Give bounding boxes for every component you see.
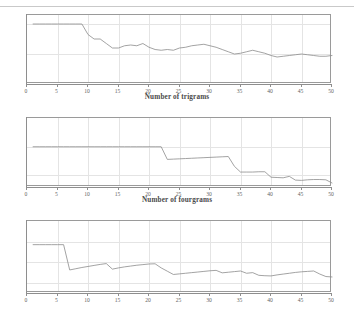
- x-tick: [209, 293, 210, 296]
- x-tick: [301, 84, 302, 87]
- x-tick: [26, 187, 27, 190]
- y-axis-fourgrams: [26, 220, 27, 293]
- plot-area-trigrams: [26, 14, 331, 83]
- x-tick-label: 40: [267, 297, 273, 303]
- x-tick: [331, 293, 332, 296]
- x-tick: [301, 187, 302, 190]
- x-tick: [240, 84, 241, 87]
- x-axis-title-trigrams: Number of trigrams: [0, 93, 354, 102]
- x-tick: [331, 84, 332, 87]
- x-tick: [240, 293, 241, 296]
- x-tick: [148, 84, 149, 87]
- x-tick-label: 25: [176, 297, 182, 303]
- x-tick: [118, 84, 119, 87]
- x-tick-label: 45: [298, 297, 304, 303]
- x-tick-label: 5: [55, 297, 58, 303]
- y-axis-middle: [26, 117, 27, 187]
- x-tick: [87, 293, 88, 296]
- x-tick-label: 0: [25, 297, 28, 303]
- series-line-middle: [27, 118, 332, 187]
- x-tick: [26, 84, 27, 87]
- x-tick: [179, 187, 180, 190]
- chart-panel-middle: 05101520253035404550 0.911.1 Number of f…: [0, 104, 354, 207]
- x-tick: [118, 293, 119, 296]
- x-tick: [240, 187, 241, 190]
- x-tick-label: 30: [206, 297, 212, 303]
- x-tick: [118, 187, 119, 190]
- x-tick-label: 20: [145, 297, 151, 303]
- x-tick: [87, 84, 88, 87]
- x-tick: [26, 293, 27, 296]
- x-tick: [270, 84, 271, 87]
- x-tick-label: 50: [328, 297, 334, 303]
- x-tick-label: 35: [237, 297, 243, 303]
- x-tick: [179, 84, 180, 87]
- x-tick: [57, 293, 58, 296]
- x-tick: [148, 187, 149, 190]
- x-tick-label: 10: [84, 297, 90, 303]
- x-tick: [57, 84, 58, 87]
- plot-area-fourgrams: [26, 220, 331, 292]
- x-tick: [301, 293, 302, 296]
- x-tick: [87, 187, 88, 190]
- x-tick: [331, 187, 332, 190]
- x-tick: [148, 293, 149, 296]
- x-tick: [270, 187, 271, 190]
- x-tick: [209, 84, 210, 87]
- x-tick: [209, 187, 210, 190]
- chart-panel-fourgrams: 05101520253035404550 0.80.911.1: [0, 207, 354, 310]
- chart-panel-trigrams: 05101520253035404550 0.60.81 Number of t…: [0, 0, 354, 104]
- figure-container: 05101520253035404550 0.60.81 Number of t…: [0, 0, 354, 310]
- x-tick: [57, 187, 58, 190]
- series-line-trigrams: [27, 15, 332, 84]
- x-axis-title-fourgrams: Number of fourgrams: [0, 196, 354, 205]
- x-tick: [270, 293, 271, 296]
- y-axis-trigrams: [26, 14, 27, 84]
- series-line-fourgrams: [27, 221, 332, 293]
- x-tick-label: 15: [115, 297, 121, 303]
- plot-area-middle: [26, 117, 331, 186]
- x-tick: [179, 293, 180, 296]
